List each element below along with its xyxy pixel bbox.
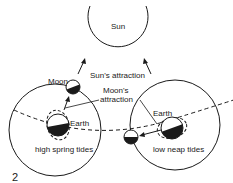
figure-number: 2	[12, 171, 18, 183]
moons-attraction-label-line1: Moon's	[103, 86, 129, 95]
neap-tides-label: low neap tides	[153, 145, 204, 154]
moon-right	[124, 130, 138, 144]
earth-right	[155, 114, 189, 142]
moon-left	[66, 80, 82, 96]
tides-diagram: Sun Sun's attraction Moon Earth high spr…	[0, 0, 233, 183]
earth-label-left: Earth	[70, 119, 89, 128]
moons-attraction-leader-left	[65, 100, 99, 108]
spring-tides-label: high spring tides	[35, 145, 93, 154]
moons-attraction-label-line2: attraction	[100, 95, 133, 104]
sun-label: Sun	[111, 22, 125, 31]
earth-left	[43, 108, 72, 143]
sun-attraction-arrow-left	[78, 58, 86, 74]
moon-label: Moon	[48, 77, 68, 86]
earth-label-right: Earth	[153, 109, 172, 118]
sun-attraction-label: Sun's attraction	[90, 71, 145, 80]
